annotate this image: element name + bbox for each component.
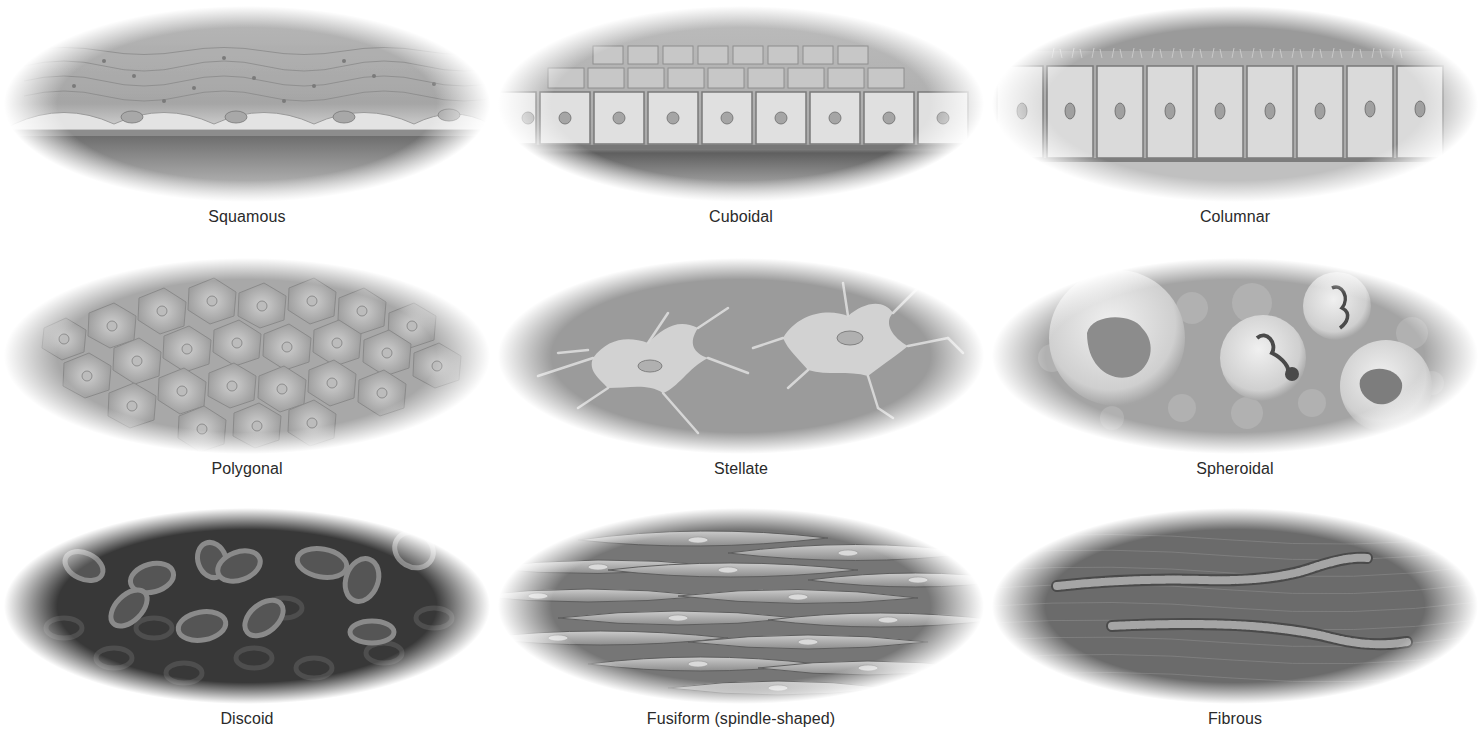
columnar-illustration — [992, 6, 1478, 202]
panel-polygonal: Polygonal — [0, 252, 494, 500]
fusiform-illustration — [498, 508, 984, 704]
panel-stellate: Stellate — [494, 252, 988, 500]
panel-fibrous: Fibrous — [988, 502, 1482, 750]
label-fusiform: Fusiform (spindle-shaped) — [494, 710, 988, 728]
label-discoid: Discoid — [0, 710, 494, 728]
label-squamous: Squamous — [0, 208, 494, 226]
panel-squamous: Squamous — [0, 0, 494, 248]
label-columnar: Columnar — [988, 208, 1482, 226]
panel-cuboidal: Cuboidal — [494, 0, 988, 248]
polygonal-illustration — [4, 258, 490, 454]
label-polygonal: Polygonal — [0, 460, 494, 478]
spheroidal-illustration — [992, 258, 1478, 454]
fibrous-illustration — [992, 508, 1478, 704]
stellate-illustration — [498, 258, 984, 454]
label-spheroidal: Spheroidal — [988, 460, 1482, 478]
panel-columnar: Columnar — [988, 0, 1482, 248]
panel-discoid: Discoid — [0, 502, 494, 750]
panel-spheroidal: Spheroidal — [988, 252, 1482, 500]
discoid-illustration — [4, 508, 490, 704]
squamous-illustration — [4, 6, 490, 202]
label-stellate: Stellate — [494, 460, 988, 478]
label-cuboidal: Cuboidal — [494, 208, 988, 226]
panel-fusiform: Fusiform (spindle-shaped) — [494, 502, 988, 750]
cuboidal-illustration — [498, 6, 984, 202]
label-fibrous: Fibrous — [988, 710, 1482, 728]
